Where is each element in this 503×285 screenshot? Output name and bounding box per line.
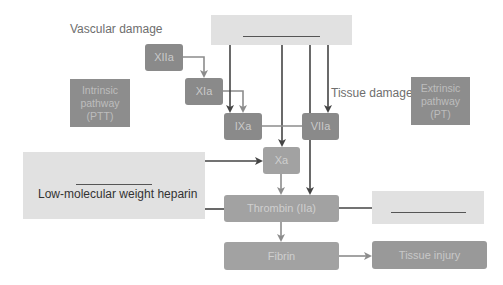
- factor-xiia-label: XIIa: [154, 51, 174, 64]
- lmwh-label: Low-molecular weight heparin: [38, 187, 197, 201]
- factor-ixa-box: IXa: [224, 113, 262, 140]
- factor-xa-label: Xa: [275, 154, 288, 167]
- intrinsic-line-1: Intrinsic: [80, 84, 119, 97]
- fibrin-label: Fibrin: [268, 250, 296, 263]
- extrinsic-pathway-box: Extrinsic pathway (PT): [411, 77, 470, 125]
- right-blank-line: [391, 212, 466, 213]
- tissue-injury-box: Tissue injury: [372, 241, 487, 269]
- factor-ixa-label: IXa: [235, 120, 252, 133]
- extrinsic-line-3: (PT): [421, 108, 461, 121]
- left-blank-line: [76, 184, 152, 185]
- extrinsic-line-2: pathway: [421, 95, 461, 108]
- intrinsic-line-2: pathway: [80, 97, 119, 110]
- intrinsic-pathway-box: Intrinsic pathway (PTT): [70, 79, 130, 127]
- tissue-damage-label: Tissue damage: [331, 86, 413, 100]
- factor-xiia-box: XIIa: [145, 44, 183, 71]
- thrombin-label: Thrombin (IIa): [247, 202, 316, 215]
- right-drug-box: [372, 191, 484, 224]
- factor-viia-label: VIIa: [311, 120, 331, 133]
- factor-xia-box: XIa: [185, 78, 223, 105]
- intrinsic-line-3: (PTT): [80, 110, 119, 123]
- thrombin-box: Thrombin (IIa): [224, 195, 339, 222]
- top-drug-box: [211, 15, 352, 45]
- fibrin-box: Fibrin: [224, 242, 339, 270]
- tissue-injury-label: Tissue injury: [399, 249, 460, 262]
- factor-xia-label: XIa: [196, 85, 213, 98]
- left-drug-box: Low-molecular weight heparin: [23, 152, 205, 219]
- factor-viia-box: VIIa: [302, 113, 339, 140]
- extrinsic-line-1: Extrinsic: [421, 82, 461, 95]
- top-blank-line: [243, 36, 320, 37]
- factor-xa-box: Xa: [263, 147, 300, 174]
- vascular-damage-label: Vascular damage: [70, 22, 163, 36]
